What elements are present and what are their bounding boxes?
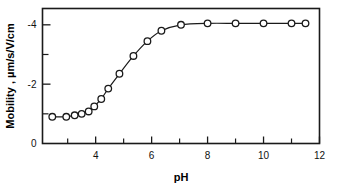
data-point-marker: [116, 70, 123, 77]
x-axis-ticks: [68, 137, 320, 144]
y-tick-label: -4: [28, 19, 37, 30]
x-tick-label: 12: [314, 150, 326, 161]
x-tick-label: 6: [149, 150, 155, 161]
x-axis-title: pH: [174, 171, 189, 183]
y-tick-label: -2: [28, 79, 37, 90]
x-tick-label: 8: [205, 150, 211, 161]
data-point-marker: [288, 20, 295, 27]
data-point-marker: [78, 111, 85, 118]
data-point-marker: [85, 108, 92, 115]
data-point-marker: [204, 20, 211, 27]
y-axis-title: Mobility , µm/s/V/cm: [4, 23, 16, 129]
data-point-marker: [98, 96, 105, 103]
data-point-marker: [63, 114, 70, 121]
data-point-marker: [71, 112, 78, 119]
data-point-marker: [302, 20, 309, 27]
data-point-marker: [232, 20, 239, 27]
x-axis-tick-labels: 4681012: [93, 150, 326, 161]
y-axis-tick-labels: 0-2-4: [28, 19, 37, 149]
x-tick-label: 10: [258, 150, 270, 161]
mobility-vs-ph-plot: 4681012 0-2-4 Mobility , µm/s/V/cm pH: [0, 0, 340, 187]
data-point-marker: [144, 38, 151, 45]
data-point-marker: [49, 114, 56, 121]
data-point-marker: [130, 53, 137, 60]
data-point-marker: [91, 103, 98, 110]
data-point-marker: [178, 22, 185, 29]
data-point-marker: [158, 27, 165, 34]
y-axis-ticks: [43, 25, 51, 114]
x-tick-label: 4: [93, 150, 99, 161]
data-point-markers: [49, 20, 309, 120]
data-point-marker: [260, 20, 267, 27]
data-point-marker: [105, 85, 112, 92]
data-series-mobility: [49, 20, 309, 120]
y-tick-label: 0: [31, 138, 37, 149]
chart-figure: 4681012 0-2-4 Mobility , µm/s/V/cm pH: [0, 0, 340, 187]
